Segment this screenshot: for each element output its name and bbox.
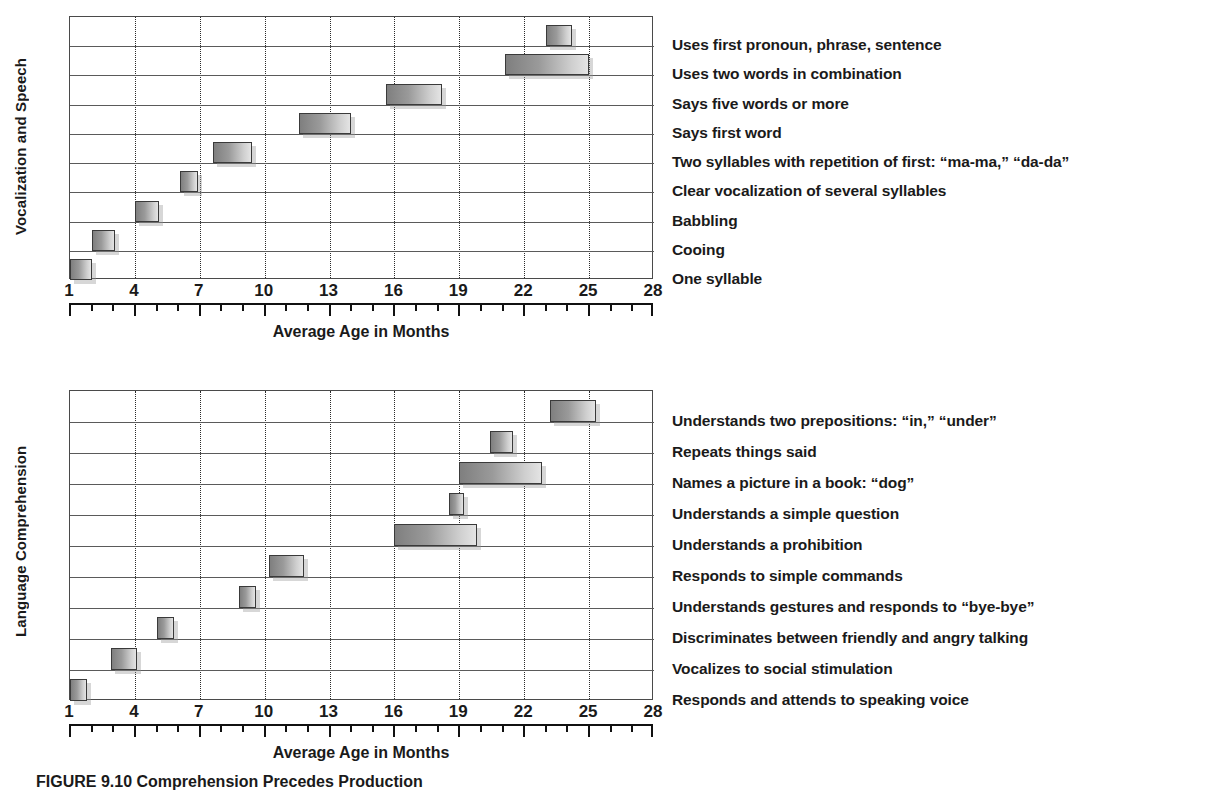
x-tick-minor xyxy=(220,726,222,732)
item-label: Babbling xyxy=(672,212,738,230)
x-tick-minor xyxy=(415,305,417,311)
x-tick-label: 19 xyxy=(449,702,468,722)
x-tick-major xyxy=(458,305,460,316)
x-tick-minor xyxy=(610,305,612,311)
item-label: Says five words or more xyxy=(672,95,849,113)
x-tick-major xyxy=(393,726,395,737)
gridline-month-7 xyxy=(200,391,201,699)
gridline-month-16 xyxy=(394,17,395,278)
x-axis-title-panel-1: Average Age in Months xyxy=(69,323,653,341)
x-tick-minor xyxy=(177,726,179,732)
x-tick-major xyxy=(523,305,525,316)
item-label: Understands a prohibition xyxy=(672,536,862,554)
x-tick-minor xyxy=(112,726,114,732)
panel-vocalization-and-speech: Vocalization and Speech 1471013161922252… xyxy=(0,0,1209,370)
x-tick-major xyxy=(329,305,331,316)
x-tick-label: 25 xyxy=(579,702,598,722)
x-tick-label: 19 xyxy=(449,281,468,301)
x-tick-minor xyxy=(437,305,439,311)
x-tick-major xyxy=(393,305,395,316)
x-tick-minor xyxy=(156,305,158,311)
x-tick-minor xyxy=(480,726,482,732)
gridline-month-10 xyxy=(265,17,266,278)
x-tick-label: 7 xyxy=(194,702,203,722)
row-baseline xyxy=(70,251,654,252)
x-tick-label: 16 xyxy=(384,702,403,722)
gridline-month-13 xyxy=(330,17,331,278)
x-tick-label: 1 xyxy=(64,281,73,301)
figure-comprehension-precedes-production: Vocalization and Speech 1471013161922252… xyxy=(0,0,1209,792)
x-tick-minor xyxy=(545,305,547,311)
x-tick-major xyxy=(329,726,331,737)
row-baseline xyxy=(70,134,654,135)
x-tick-major xyxy=(199,305,201,316)
row-baseline xyxy=(70,192,654,193)
bar-range xyxy=(269,555,304,577)
row-baseline xyxy=(70,484,654,485)
item-label: Understands two prepositions: “in,” “und… xyxy=(672,412,997,430)
x-tick-label: 16 xyxy=(384,281,403,301)
x-tick-minor xyxy=(156,726,158,732)
y-axis-title-panel-2: Language Comprehension xyxy=(6,386,34,696)
item-label: Uses first pronoun, phrase, sentence xyxy=(672,36,941,54)
item-label: Understands a simple question xyxy=(672,505,899,523)
x-tick-minor xyxy=(242,305,244,311)
x-tick-minor xyxy=(91,305,93,311)
x-tick-major xyxy=(588,726,590,737)
row-baseline xyxy=(70,222,654,223)
x-tick-minor xyxy=(372,726,374,732)
x-tick-label: 7 xyxy=(194,281,203,301)
item-label: Two syllables with repetition of first: … xyxy=(672,153,1069,171)
x-tick-minor xyxy=(545,726,547,732)
item-label: Uses two words in combination xyxy=(672,65,902,83)
gridline-month-25 xyxy=(589,391,590,699)
bar-range xyxy=(180,171,197,192)
x-tick-label: 22 xyxy=(514,281,533,301)
x-tick-minor xyxy=(220,305,222,311)
x-tick-major xyxy=(458,726,460,737)
row-baseline xyxy=(70,46,654,47)
bar-range xyxy=(449,493,464,515)
x-tick-major xyxy=(264,305,266,316)
x-tick-minor xyxy=(285,726,287,732)
item-label: Cooing xyxy=(672,241,725,259)
x-tick-minor xyxy=(307,305,309,311)
row-baseline xyxy=(70,453,654,454)
gridline-month-25 xyxy=(589,17,590,278)
x-tick-minor xyxy=(242,726,244,732)
bar-range xyxy=(111,648,137,670)
x-tick-marks-panel-2 xyxy=(69,724,653,740)
x-tick-major xyxy=(651,305,653,316)
row-baseline xyxy=(70,546,654,547)
bar-range xyxy=(505,54,589,75)
plot-area-panel-2 xyxy=(69,390,653,700)
x-tick-major xyxy=(651,726,653,737)
x-tick-minor xyxy=(112,305,114,311)
row-baseline xyxy=(70,608,654,609)
item-label: Vocalizes to social stimulation xyxy=(672,660,893,678)
x-tick-minor xyxy=(502,726,504,732)
x-tick-label: 4 xyxy=(129,281,138,301)
bar-range xyxy=(386,84,442,105)
x-tick-minor xyxy=(415,726,417,732)
x-tick-minor xyxy=(480,305,482,311)
x-tick-labels-panel-1: 14710131619222528 xyxy=(69,279,653,303)
x-tick-minor xyxy=(350,305,352,311)
x-tick-minor xyxy=(502,305,504,311)
x-tick-major xyxy=(69,726,71,737)
gridline-month-19 xyxy=(459,17,460,278)
x-tick-major xyxy=(588,305,590,316)
x-tick-minor xyxy=(631,305,633,311)
bar-range xyxy=(92,230,116,251)
figure-caption: FIGURE 9.10 Comprehension Precedes Produ… xyxy=(36,773,423,792)
x-tick-minor xyxy=(610,726,612,732)
x-tick-minor xyxy=(350,726,352,732)
x-tick-label: 4 xyxy=(129,702,138,722)
x-tick-major xyxy=(134,726,136,737)
row-baseline xyxy=(70,105,654,106)
bar-range xyxy=(70,259,92,280)
y-axis-title-panel-1: Vocalization and Speech xyxy=(6,14,34,279)
bar-range xyxy=(213,142,252,163)
x-tick-major xyxy=(264,726,266,737)
plot-area-panel-1 xyxy=(69,16,653,279)
